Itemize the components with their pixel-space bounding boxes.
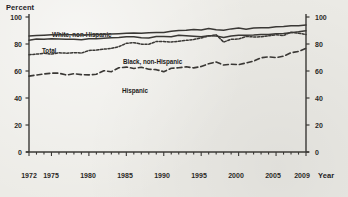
plot-area bbox=[0, 0, 348, 197]
axis-ticks bbox=[26, 17, 310, 156]
chart-figure: Percent Year 100 80 60 40 20 0 100 80 60… bbox=[0, 0, 348, 197]
data-series-lines bbox=[29, 25, 306, 76]
